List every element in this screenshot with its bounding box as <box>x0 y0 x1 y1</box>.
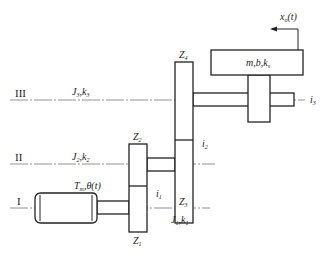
shaft-III-jk-label: J3,k3 <box>72 86 89 98</box>
shaft-I <box>97 201 129 214</box>
ratio-label-i3: i3 <box>310 94 316 106</box>
gear-label-Z2: Z2 <box>133 131 142 143</box>
load-mount <box>248 75 270 122</box>
shaft-II <box>147 158 175 171</box>
shaft-label-II: II <box>15 151 23 163</box>
shaft-label-I: I <box>17 195 21 207</box>
shaft-III <box>193 93 294 106</box>
ratio-label-i1: i1 <box>156 188 162 200</box>
ratio-label-i2: i2 <box>202 138 208 150</box>
gear-Z1-Z2 <box>129 144 147 232</box>
output-arrow-head-icon <box>270 27 277 32</box>
load-label: m,b,ks <box>246 57 271 69</box>
gear-label-Z4: Z4 <box>179 49 188 61</box>
gear-label-Z1: Z1 <box>133 235 142 247</box>
output-label: xo(t) <box>279 11 298 23</box>
output-arrow-line <box>272 29 298 50</box>
shaft-label-III: III <box>15 87 26 99</box>
motor-label: Tm,θ(t) <box>74 180 101 192</box>
gear-train-diagram: xo(t) m,b,ks III II I J3,k3 J2,k2 J1,k1 … <box>0 0 323 255</box>
motor <box>35 193 97 223</box>
shaft-II-jk-label: J2,k2 <box>72 151 89 163</box>
